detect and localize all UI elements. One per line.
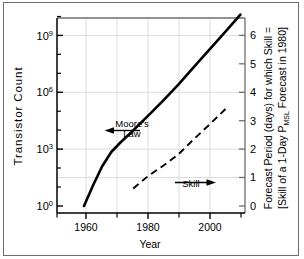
right-tick-label-0: 0 [250,200,256,212]
left-tick-label-9: 109 [37,29,53,42]
x-tick-label-2000: 2000 [198,221,222,233]
right-axis-title-line2: [Skill of a 1-Day PMSL Forecast in 1980] [276,27,290,209]
gridlines [57,18,245,213]
left-tick-label-3: 103 [37,142,53,155]
left-tick-label-0: 100 [37,199,53,212]
x-tick-label-1980: 1980 [136,221,160,233]
moores-law-annotation-line2: Law [123,128,141,139]
right-tick-label-1: 1 [250,171,256,183]
figure-container: 109 106 103 100 Transistor Count [0,0,304,259]
right-tick-label-2: 2 [250,143,256,155]
x-axis-tick-labels: 1960 1980 2000 [74,221,222,233]
moores-law-annotation: Moore's Law [105,118,149,139]
right-tick-label-5: 5 [250,58,256,70]
right-axis-ticks [239,35,245,206]
right-axis-tick-labels: 0 1 2 3 4 5 6 [250,29,256,212]
plot-frame [57,18,245,213]
x-axis-title: Year [139,238,161,250]
x-tick-label-1960: 1960 [74,221,98,233]
skill-annotation-line1: Skill [182,178,199,189]
right-tick-label-3: 3 [250,115,256,127]
right-tick-label-4: 4 [250,86,256,98]
left-tick-label-6: 106 [37,85,53,98]
right-axis-title-line1: Forecast Period (days) for which Skill = [262,27,274,209]
right-tick-label-6: 6 [250,29,256,41]
left-axis-title: Transistor Count [12,67,24,166]
left-axis-tick-labels: 109 106 103 100 [37,29,53,213]
transistor-count-and-forecast-skill-chart: 109 106 103 100 Transistor Count [0,0,304,259]
x-axis-ticks [57,213,241,219]
